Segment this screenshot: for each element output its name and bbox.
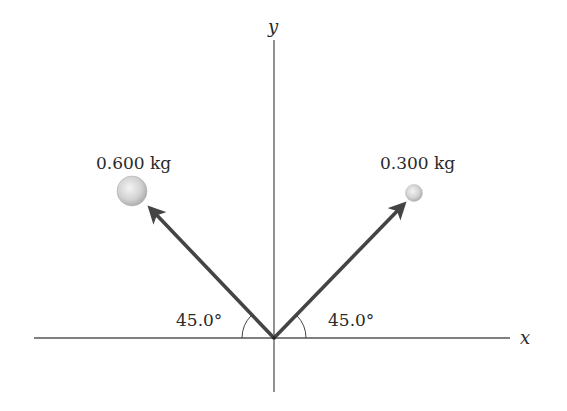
origin-point <box>272 336 276 340</box>
right-mass-label: 0.300 kg <box>380 153 455 173</box>
right-angle-arc <box>297 315 306 338</box>
left-mass-ball <box>117 176 147 206</box>
diagram-canvas: x y 0.600 kg 0.300 kg 45.0° 45.0° <box>0 0 567 411</box>
right-mass-ball <box>406 185 423 202</box>
left-angle-label: 45.0° <box>176 310 222 330</box>
x-axis-label: x <box>520 327 530 348</box>
right-angle-label: 45.0° <box>328 310 374 330</box>
y-axis-label: y <box>267 16 279 37</box>
left-mass-label: 0.600 kg <box>96 153 171 173</box>
left-angle-arc <box>242 315 251 338</box>
